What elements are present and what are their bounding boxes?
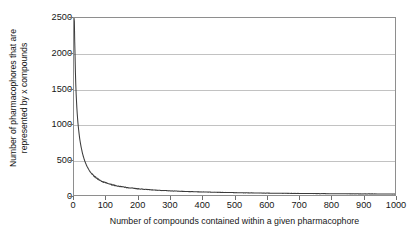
- y-axis-tick-mark: [69, 17, 73, 18]
- y-axis-title-line-1: Number of pharmacophores that are: [8, 29, 19, 167]
- x-axis-tick-labels: 01002003004005006007008009001000: [0, 200, 414, 214]
- x-axis-tick-label: 200: [130, 200, 145, 210]
- x-axis-tick-label: 900: [356, 200, 371, 210]
- y-axis-tick-mark: [69, 53, 73, 54]
- decay-curve: [74, 18, 395, 195]
- y-axis-tick-mark: [69, 160, 73, 161]
- x-axis-title: Number of compounds contained within a g…: [73, 216, 396, 226]
- x-axis-tick-label: 500: [227, 200, 242, 210]
- x-axis-tick-label: 800: [324, 200, 339, 210]
- y-axis-title-line-2: represented by x compounds: [19, 29, 30, 167]
- x-axis-tick-label: 100: [98, 200, 113, 210]
- plot-area: [73, 17, 396, 196]
- data-series-layer: [74, 18, 395, 195]
- y-axis-tick-mark: [69, 89, 73, 90]
- x-axis-tick-label: 600: [259, 200, 274, 210]
- y-axis-tick-mark: [69, 124, 73, 125]
- x-axis-tick-label: 0: [70, 200, 75, 210]
- x-axis-tick-label: 400: [195, 200, 210, 210]
- y-axis-title: Number of pharmacophores that are repres…: [0, 0, 38, 196]
- chart-figure: Number of pharmacophores that are repres…: [0, 0, 414, 238]
- x-axis-tick-label: 300: [162, 200, 177, 210]
- x-axis-tick-label: 1000: [386, 200, 406, 210]
- x-axis-tick-label: 700: [291, 200, 306, 210]
